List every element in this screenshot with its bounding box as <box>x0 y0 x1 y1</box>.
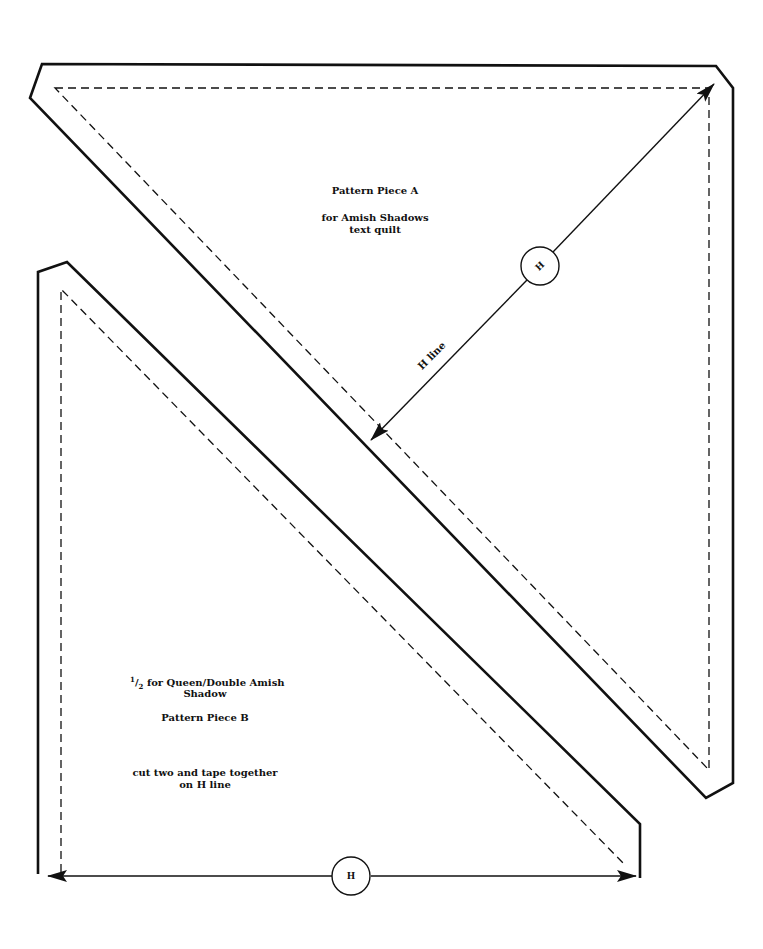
pattern-diagram <box>0 0 763 949</box>
piece-b-instruction-line1: cut two and tape together <box>130 767 280 779</box>
piece-b-cut-line <box>38 262 640 878</box>
piece-b-title: Pattern Piece B <box>130 712 280 724</box>
piece-b-instruction-line2: on H line <box>130 779 280 791</box>
pattern-piece-b <box>38 262 640 895</box>
piece-a-title: Pattern Piece A <box>300 185 450 197</box>
piece-b-heading-text: for Queen/Double Amish <box>147 677 285 688</box>
piece-a-subtitle-line1: for Amish Shadows <box>300 212 450 224</box>
piece-a-h-line-lower <box>371 280 527 440</box>
piece-b-h-marker-label: H <box>331 871 371 881</box>
piece-a-h-line-upper <box>553 84 714 252</box>
piece-b-fraction: 1/2 <box>130 677 143 688</box>
piece-b-heading-line2: Shadow <box>130 688 280 700</box>
piece-a-subtitle-line2: text quilt <box>300 224 450 236</box>
